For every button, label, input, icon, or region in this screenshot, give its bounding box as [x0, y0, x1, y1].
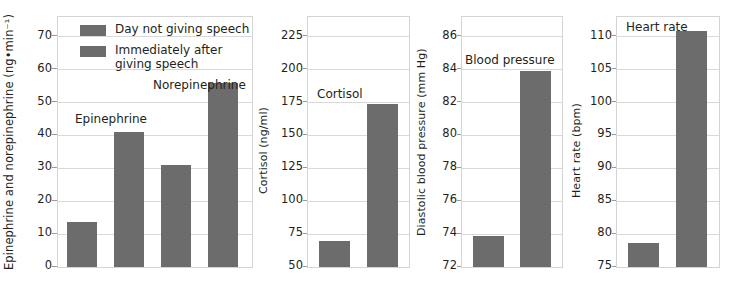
y-axis-tick-label: 82: [442, 96, 457, 108]
y-axis-tick-label: 80: [442, 129, 457, 141]
y-axis-title-catecholamines: Epinephrine and norepinephrine (ng•min⁻¹…: [2, 14, 16, 270]
y-axis-tick-label: 90: [597, 162, 612, 174]
y-axis-tick-label: 40: [37, 129, 52, 141]
y-axis-tick-label: 225: [281, 30, 303, 42]
y-axis-tick-label: 105: [590, 63, 612, 75]
legend: Day not giving speech Immediately after …: [80, 20, 260, 72]
legend-swatch-day-not-giving-speech: [80, 25, 106, 36]
y-axis-tick-label: 84: [442, 63, 457, 75]
y-axis-tick-label: 74: [442, 227, 457, 239]
bar: [67, 222, 97, 267]
legend-entry-day-not-giving-speech: Day not giving speech: [80, 23, 249, 37]
legend-entry-immediately-after-giving-speech: Immediately after giving speech: [80, 44, 222, 71]
panel-blood-pressure: Diastolic blood pressure (mm Hg) 7274767…: [415, 0, 570, 288]
y-axis-tick-label: 75: [288, 227, 303, 239]
plot-area-cortisol: [307, 16, 410, 268]
gridline: [462, 36, 562, 37]
y-axis-tick-label: 70: [37, 30, 52, 42]
y-axis-tick-label: 175: [281, 96, 303, 108]
y-axis-ticks-catecholamines: 010203040506070: [22, 0, 56, 288]
y-axis-tick-label: 100: [590, 96, 612, 108]
y-axis-tick-label: 110: [590, 30, 612, 42]
y-axis-ticks-cortisol: 5075100125150175200225: [273, 0, 307, 288]
plot-area-heart-rate: [616, 16, 720, 268]
y-axis-tick-label: 200: [281, 63, 303, 75]
gridline: [308, 36, 409, 37]
legend-swatch-immediately-after-giving-speech: [80, 46, 106, 57]
y-axis-tick-label: 100: [281, 194, 303, 206]
y-axis-tick-label: 75: [597, 260, 612, 272]
panel-title-cortisol: Cortisol: [317, 87, 363, 101]
y-axis-tick-label: 10: [37, 227, 52, 239]
y-axis-ticks-heart-rate: 7580859095100105110: [582, 0, 616, 288]
bar: [676, 31, 707, 267]
y-axis-tick-label: 0: [45, 260, 52, 272]
y-axis-tick-label: 30: [37, 162, 52, 174]
y-axis-tick-label: 72: [442, 260, 457, 272]
bar: [208, 83, 238, 267]
y-axis-tick-label: 50: [37, 96, 52, 108]
y-axis-tick-label: 95: [597, 129, 612, 141]
y-axis-tick-label: 78: [442, 162, 457, 174]
panel-title-heart-rate: Heart rate: [626, 20, 688, 34]
legend-label-day-not-giving-speech: Day not giving speech: [115, 23, 249, 37]
panel-cortisol: Cortisol (ng/ml) 5075100125150175200225 …: [255, 0, 415, 288]
series-label-epinephrine: Epinephrine: [75, 112, 147, 126]
panel-heart-rate: Heart rate (bpm) 7580859095100105110 Hea…: [570, 0, 741, 288]
bar: [319, 241, 350, 267]
y-axis-tick-label: 125: [281, 162, 303, 174]
bar: [628, 243, 659, 267]
bar: [473, 236, 504, 267]
bar: [520, 71, 551, 267]
y-axis-tick-label: 80: [597, 227, 612, 239]
panel-title-blood-pressure: Blood pressure: [465, 53, 555, 67]
y-axis-tick-label: 86: [442, 30, 457, 42]
legend-label-immediately-after-giving-speech: Immediately after giving speech: [115, 44, 222, 71]
series-label-norepinephrine: Norepinephrine: [153, 78, 246, 92]
gridline: [462, 69, 562, 70]
bar: [114, 132, 144, 267]
stress-response-bar-chart-figure: Epinephrine and norepinephrine (ng•min⁻¹…: [0, 0, 741, 288]
y-axis-tick-label: 85: [597, 194, 612, 206]
y-axis-tick-label: 76: [442, 194, 457, 206]
y-axis-tick-label: 20: [37, 194, 52, 206]
bar: [367, 104, 398, 267]
y-axis-tick-label: 60: [37, 63, 52, 75]
panel-catecholamines: Epinephrine and norepinephrine (ng•min⁻¹…: [0, 0, 255, 288]
y-axis-tick-label: 150: [281, 129, 303, 141]
y-axis-tick-label: 50: [288, 260, 303, 272]
y-axis-title-cortisol: Cortisol (ng/ml): [257, 107, 270, 194]
gridline: [308, 69, 409, 70]
y-axis-ticks-blood-pressure: 7274767880828486: [427, 0, 461, 288]
bar: [161, 165, 191, 267]
